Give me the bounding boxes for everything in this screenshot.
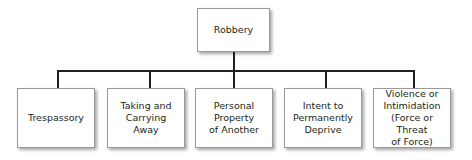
root-node: Robbery — [197, 8, 270, 52]
child-connector-1 — [57, 70, 59, 88]
root-label: Robbery — [214, 24, 253, 36]
child-label: Taking and Carrying Away — [120, 100, 171, 136]
child-label: Trespassory — [28, 112, 84, 124]
child-node-taking-carrying: Taking and Carrying Away — [107, 88, 185, 148]
child-label: Intent to Permanently Deprive — [293, 100, 353, 136]
child-connector-5 — [413, 70, 415, 88]
child-connector-2 — [149, 70, 151, 88]
horizontal-bus — [57, 70, 413, 72]
child-node-violence: Violence or Intimidation (Force or Threa… — [373, 88, 451, 148]
child-node-intent-deprive: Intent to Permanently Deprive — [284, 88, 362, 148]
root-connector — [233, 52, 235, 71]
child-connector-4 — [325, 70, 327, 88]
child-node-personal-property: Personal Property of Another — [195, 88, 273, 148]
child-connector-3 — [233, 70, 235, 88]
child-label: Personal Property of Another — [209, 100, 259, 136]
child-label: Violence or Intimidation (Force or Threa… — [376, 88, 448, 148]
child-node-trespassory: Trespassory — [17, 88, 95, 148]
